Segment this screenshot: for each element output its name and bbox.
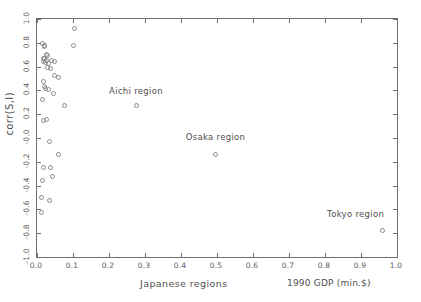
x-axis-tick [181,253,182,257]
data-point [134,103,139,108]
data-point [380,228,385,233]
plot-frame: Aichi regionOsaka regionTokyo region [36,18,398,258]
data-point [41,165,46,170]
y-axis-tick-label: 1.0 [22,12,31,25]
data-point [39,210,44,215]
x-axis-tick [73,253,74,257]
data-point [56,152,61,157]
y-axis-tick-right [393,114,397,115]
x-axis-tick-label: 0.9 [354,261,367,270]
y-axis-tick [37,162,41,163]
data-point [71,43,76,48]
x-axis-tick-label: 0.2 [102,261,115,270]
y-axis-tick-right [393,19,397,20]
y-axis-tick [37,233,41,234]
y-axis-tick-right [393,257,397,258]
y-axis-tick-label: -0.0 [22,129,31,144]
x-axis-tick-label: 0.8 [318,261,331,270]
x-axis-tick [253,253,254,257]
point-annotation: Aichi region [109,86,163,96]
y-axis-tick [37,19,41,20]
point-annotation: Tokyo region [327,209,384,219]
y-axis-tick [37,138,41,139]
x-axis-tick-top [289,19,290,23]
y-axis-tick-right [393,186,397,187]
data-point [50,174,55,179]
y-axis-tick-right [393,43,397,44]
data-point [40,178,45,183]
data-point [42,44,47,49]
y-axis-label: corr(S,I) [4,92,15,136]
x-axis-tick-label: 0.5 [210,261,223,270]
y-axis-tick-label: 0.8 [22,36,31,49]
x-axis-tick-top [325,19,326,23]
x-axis-tick [289,253,290,257]
y-axis-tick [37,114,41,115]
x-axis-tick-label: 0.7 [282,261,295,270]
data-point [213,152,218,157]
scatter-chart-figure: corr(S,I) 1.00.80.60.40.2-0.0-0.2-0.4-0.… [0,0,421,302]
x-axis-tick-top [145,19,146,23]
data-point [52,59,57,64]
y-axis-tick [37,257,41,258]
x-axis-tick-label: 0.0 [30,261,43,270]
x-axis-tick [325,253,326,257]
x-axis-units-label: 1990 GDP (min.$) [287,278,371,288]
data-point [47,139,52,144]
x-axis-tick-label: 1.0 [390,261,403,270]
data-point [40,97,45,102]
data-point [48,66,53,71]
y-axis-tick-right [393,233,397,234]
data-point [62,103,67,108]
x-axis-tick-label: 0.6 [246,261,259,270]
y-axis-tick-label: -0.4 [22,177,31,192]
y-axis-tick-right [393,162,397,163]
y-axis-tick [37,186,41,187]
y-axis-tick-label: -0.8 [22,224,31,239]
x-axis-tick-top [217,19,218,23]
y-axis-tick-label: -0.6 [22,201,31,216]
y-axis-tick-label: -0.2 [22,153,31,168]
x-axis-tick [361,253,362,257]
y-axis-tick-right [393,67,397,68]
x-axis-tick [109,253,110,257]
x-axis-tick-top [181,19,182,23]
data-point [44,117,49,122]
x-axis-tick [145,253,146,257]
x-axis-tick [397,253,398,257]
y-axis-tick-label: 0.4 [22,83,31,96]
x-axis-tick [217,253,218,257]
point-annotation: Osaka region [186,132,246,142]
y-axis-tick-label: 0.2 [22,107,31,120]
data-point [48,165,53,170]
x-axis-label: Japanese regions [140,278,228,289]
y-axis-tick-right [393,90,397,91]
data-point [47,198,52,203]
x-axis-tick-label: 0.4 [174,261,187,270]
data-point [51,91,56,96]
data-point [72,26,77,31]
y-axis-tick-right [393,209,397,210]
y-axis-tick [37,90,41,91]
x-axis-tick-top [253,19,254,23]
x-axis-tick-label: 0.3 [138,261,151,270]
y-axis-tick [37,67,41,68]
x-axis-tick-label: 0.1 [66,261,79,270]
x-axis-tick-top [397,19,398,23]
data-point [56,75,61,80]
data-point [39,195,44,200]
x-axis-tick-top [109,19,110,23]
x-axis-tick-top [73,19,74,23]
plot-area: Aichi regionOsaka regionTokyo region [37,19,397,257]
y-axis-tick-label: 0.6 [22,59,31,72]
y-axis-tick-right [393,138,397,139]
x-axis-tick-top [361,19,362,23]
